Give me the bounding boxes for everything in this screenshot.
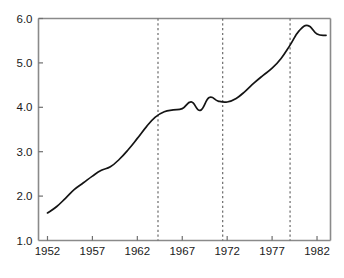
y-tick-label: 4.0 <box>17 101 33 113</box>
x-tick-label: 1977 <box>259 245 285 257</box>
y-axis-tick-labels: 1.02.03.04.05.06.0 <box>17 13 33 247</box>
x-tick-label: 1972 <box>214 245 240 257</box>
y-tick-label: 3.0 <box>17 146 33 158</box>
series-line-series-1 <box>47 25 326 213</box>
x-tick-label: 1962 <box>125 245 151 257</box>
chart-plot-svg: 1.02.03.04.05.06.0 195219571962196719721… <box>0 0 344 278</box>
y-tick-label: 6.0 <box>17 13 33 25</box>
y-tick-label: 2.0 <box>17 190 33 202</box>
event-marker-lines <box>158 19 290 241</box>
x-tick-label: 1967 <box>169 245 195 257</box>
x-axis-tick-labels: 1952195719621967197219771982 <box>35 245 330 257</box>
y-tick-label: 1.0 <box>17 235 33 247</box>
x-tick-label: 1982 <box>304 245 330 257</box>
chart-figure: 1.02.03.04.05.06.0 195219571962196719721… <box>0 0 344 278</box>
x-tick-label: 1952 <box>35 245 61 257</box>
data-series-group <box>47 25 326 213</box>
y-tick-label: 5.0 <box>17 57 33 69</box>
x-tick-label: 1957 <box>80 245 106 257</box>
